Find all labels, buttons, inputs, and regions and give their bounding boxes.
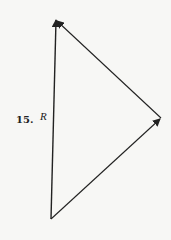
resultant-label: R bbox=[40, 110, 47, 122]
vector-a-arrow bbox=[51, 119, 160, 219]
vector-b-arrow bbox=[57, 21, 161, 118]
problem-number: 15. bbox=[16, 114, 33, 125]
resultant-r-arrow bbox=[51, 20, 56, 219]
